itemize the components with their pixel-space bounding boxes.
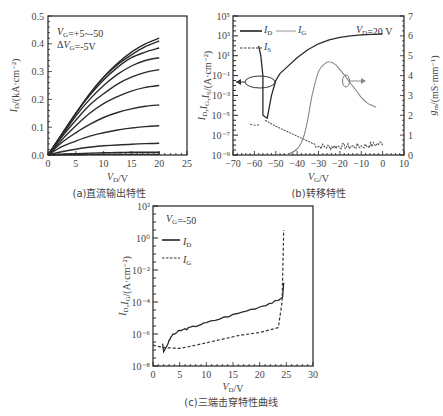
annotation-vg: VG=-50: [166, 213, 196, 226]
x-axis-label: VD/V: [107, 171, 129, 184]
y-axis-label: ID,IG/(A·cm⁻²): [117, 256, 133, 317]
x-tick-label: 15: [126, 158, 136, 169]
plot-frame: [153, 206, 313, 366]
curve-id: [259, 34, 383, 118]
y2-tick-label: 0: [408, 150, 413, 161]
x-tick-label: 25: [182, 158, 192, 169]
y-tick-label: 10²: [137, 201, 150, 212]
curve-vg-45: [48, 41, 159, 155]
caption-c: (c)三端击穿特性曲线: [184, 396, 277, 408]
annotation-vg-step: ΔVG=-5V: [57, 39, 97, 52]
x-tick-label: 0: [46, 158, 51, 169]
y2-tick-label: 2: [408, 110, 413, 121]
x-tick-label: 30: [308, 369, 318, 380]
y-tick-label: 0.4: [32, 38, 45, 49]
y-tick-label: 10¹: [217, 50, 230, 61]
y2-tick-label: 5: [408, 50, 413, 61]
y-tick-label: 10⁻¹: [212, 70, 230, 81]
chart-b-transfer: −70−60−50−40−30−20−1001010⁵10³10¹10⁻¹10⁻…: [196, 11, 441, 200]
left-axis-marker-ellipse: [245, 76, 275, 88]
x-tick-label: −40: [289, 158, 305, 169]
y2-tick-label: 3: [408, 90, 413, 101]
curve-ig: [153, 230, 284, 348]
x-tick-label: 20: [255, 369, 265, 380]
y2-tick-label: 1: [408, 130, 413, 141]
y-tick-label: 10⁻³: [212, 90, 230, 101]
y-tick-label: 0.3: [32, 66, 45, 77]
y-tick-label: 0.0: [32, 150, 45, 161]
caption-b: (b)转移特性: [291, 187, 345, 199]
y-tick-label: 0.2: [32, 94, 45, 105]
y-tick-label: 10⁻⁴: [132, 297, 151, 308]
legend-is: IS: [263, 41, 271, 54]
y-tick-label: 10⁻⁹: [212, 150, 231, 161]
y2-axis-label: gm/(mS·mm⁻¹): [427, 55, 441, 115]
x-axis-label: VG/V: [308, 171, 330, 184]
curve-id: [163, 283, 284, 352]
annotation-vg-range: VG=+5~-50: [57, 26, 103, 39]
x-tick-label: −20: [332, 158, 348, 169]
x-tick-label: 20: [154, 158, 164, 169]
x-tick-label: 5: [73, 158, 78, 169]
x-tick-label: 25: [281, 369, 291, 380]
caption-a: (a)直流输出特性: [73, 187, 147, 199]
y-tick-label: 10⁰: [136, 233, 150, 244]
y-axis-label: ID/(kA·cm⁻²): [8, 59, 22, 114]
y-tick-label: 10⁵: [217, 11, 231, 22]
x-tick-label: 15: [228, 369, 238, 380]
x-tick-label: −10: [353, 158, 369, 169]
x-tick-label: 0: [151, 369, 156, 380]
y-tick-label: 0.1: [32, 122, 45, 133]
x-axis-label: VD/V: [222, 381, 244, 394]
legend: IDIGIS: [240, 24, 306, 54]
chart-a-dc-output: 05101520250.00.10.20.30.40.5VD/VID/(kA·c…: [8, 11, 192, 200]
arrow-left-icon: [236, 79, 241, 85]
y2-tick-label: 6: [408, 30, 413, 41]
y-tick-label: 10⁻⁵: [212, 110, 231, 121]
arrow-right-icon: [361, 78, 366, 84]
y-tick-label: 10⁻²: [132, 265, 150, 276]
x-tick-label: 5: [177, 369, 182, 380]
y-tick-label: 10³: [217, 30, 230, 41]
curve-gm: [286, 62, 376, 155]
y-tick-label: 10⁻⁷: [212, 130, 231, 141]
legend-ig: IG: [182, 254, 191, 267]
y-tick-label: 0.5: [32, 11, 45, 22]
x-tick-label: 0: [380, 158, 385, 169]
legend-id: ID: [263, 24, 272, 37]
legend-id: ID: [182, 236, 191, 249]
y2-tick-label: 4: [408, 70, 413, 81]
y-tick-label: 10⁻⁶: [132, 329, 151, 340]
curve-vg-40: [48, 48, 159, 155]
y2-tick-label: 7: [408, 11, 413, 22]
x-tick-label: −30: [311, 158, 327, 169]
legend: IDIG: [162, 236, 191, 267]
x-tick-label: 10: [99, 158, 109, 169]
curve-vg-25: [48, 86, 159, 156]
legend-ig: IG: [297, 24, 306, 37]
x-tick-label: −50: [268, 158, 284, 169]
x-tick-label: −60: [247, 158, 263, 169]
curve-ig-is: [265, 120, 383, 149]
x-tick-label: 10: [201, 369, 211, 380]
figure: 05101520250.00.10.20.30.40.5VD/VID/(kA·c…: [0, 0, 443, 416]
y-tick-label: 10⁻⁸: [132, 361, 151, 372]
chart-c-breakdown: 05101520253010²10⁰10⁻²10⁻⁴10⁻⁶10⁻⁸VD/VID…: [117, 201, 318, 409]
curve-vg-30: [48, 70, 159, 155]
